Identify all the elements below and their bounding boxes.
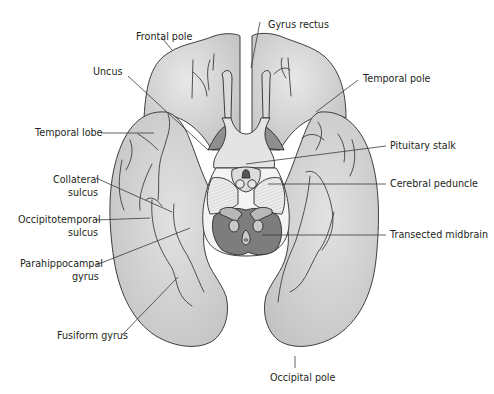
label-collateral-sulcus-line1: Collateral [53, 174, 99, 185]
label-collateral-sulcus-line2: sulcus [68, 187, 98, 198]
label-temporal-lobe: Temporal lobe [34, 127, 103, 138]
label-gyrus-rectus: Gyrus rectus [268, 19, 329, 30]
label-occipital-pole: Occipital pole [270, 372, 336, 383]
label-uncus: Uncus [93, 66, 122, 77]
right-gyrus-rectus [262, 71, 270, 118]
pituitary-stalk [242, 170, 250, 178]
label-fusiform-gyrus: Fusiform gyrus [57, 330, 128, 341]
right-red-nucleus [253, 220, 263, 232]
label-temporal-pole: Temporal pole [362, 73, 431, 84]
label-occipitotemporal-sulcus-line1: Occipitotemporal [18, 214, 101, 225]
label-parahippocampal-gyrus-line2: gyrus [72, 271, 99, 282]
cropped-caption-strip [0, 386, 494, 394]
label-transected-midbrain: Transected midbrain [389, 229, 488, 240]
midbrain-complex [203, 167, 290, 256]
left-red-nucleus [229, 220, 239, 232]
right-mammillary-body [248, 180, 256, 188]
label-pituitary-stalk: Pituitary stalk [390, 140, 456, 151]
brain-inferior-view-diagram: Frontal pole Gyrus rectus Uncus Temporal… [0, 0, 494, 394]
left-mammillary-body [236, 180, 244, 188]
label-cerebral-peduncle: Cerebral peduncle [390, 178, 478, 189]
label-occipitotemporal-sulcus-line2: sulcus [68, 227, 98, 238]
label-parahippocampal-gyrus-line1: Parahippocampal [20, 258, 103, 269]
label-frontal-pole: Frontal pole [136, 31, 192, 42]
